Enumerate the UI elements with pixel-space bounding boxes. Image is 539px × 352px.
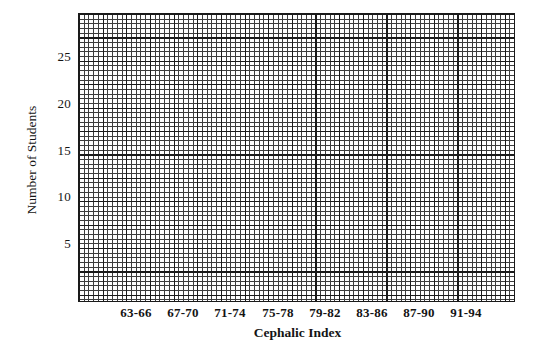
y-axis-tick-labels: 25 20 15 10 5 (40, 0, 71, 352)
y-axis-title: Number of Students (25, 70, 39, 250)
y-tick-label-5: 5 (40, 237, 71, 250)
x-axis-title: Cephalic Index (0, 325, 539, 340)
y-tick-label-15: 15 (40, 144, 71, 157)
chart-figure: 25 20 15 10 5 Number of Students 63-66 6… (0, 0, 539, 352)
x-axis-tick-labels: 63-66 67-70 71-74 75-78 79-82 83-86 87-9… (0, 306, 539, 322)
y-tick-label-10: 10 (40, 190, 71, 203)
y-tick-label-20: 20 (40, 97, 71, 110)
x-tick-label-91-94: 91-94 (426, 306, 506, 320)
plot-area-graph-paper (79, 14, 514, 301)
y-tick-label-25: 25 (40, 50, 71, 63)
